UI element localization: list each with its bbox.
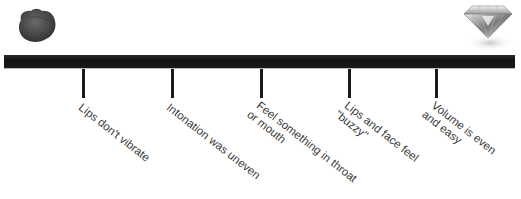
tick-marker-3: [260, 69, 263, 98]
diamond-icon: [458, 0, 518, 54]
rock-icon: [15, 6, 57, 44]
tick-marker-5: [435, 69, 438, 98]
marker-label-1: Lips don't vibrate: [76, 101, 152, 165]
marker-label-4: Lips and face feel "buzzy": [334, 99, 421, 175]
tick-marker-4: [348, 69, 351, 98]
scale-bar: [4, 55, 515, 68]
marker-label-5: Volume is even and easy: [421, 99, 498, 168]
tick-marker-2: [171, 69, 174, 98]
marker-label-1-line1: Lips don't vibrate: [76, 101, 152, 165]
tick-marker-1: [82, 69, 85, 98]
